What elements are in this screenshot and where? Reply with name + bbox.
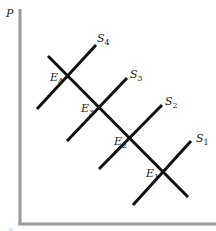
label-e4: E4 [49, 71, 63, 86]
supply-demand-diagram: P 0 S4 S3 S2 S1 E4 E3 E2 E1 [0, 0, 216, 231]
demand-curve [48, 56, 188, 197]
supply-curve-s3 [67, 78, 127, 141]
label-s3: S3 [130, 68, 143, 83]
label-s4: S4 [97, 32, 110, 47]
label-s1: S1 [196, 132, 209, 147]
label-e2: E2 [113, 135, 127, 150]
y-axis-label: P [5, 7, 14, 20]
label-e1: E1 [145, 167, 159, 182]
label-e3: E3 [80, 102, 94, 117]
supply-curve-s4 [37, 45, 96, 109]
origin-label: 0 [9, 226, 13, 231]
label-s2: S2 [165, 95, 178, 110]
